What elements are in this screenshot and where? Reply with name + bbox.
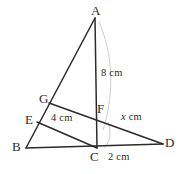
point-label-F: F [97,102,104,115]
measure-FD-label: x cm [121,112,142,123]
segment-AC [95,18,97,148]
point-label-E: E [25,113,33,126]
point-label-B: B [12,140,21,153]
segment-GD [49,103,163,144]
measure-GF-label: 4 cm [51,113,73,124]
measure-CD-label: 2 cm [108,152,130,163]
point-label-C: C [90,150,99,163]
segment-AB [26,18,95,148]
point-label-G: G [39,92,48,105]
arc-C-corner [104,122,110,148]
measure-FD-unit: cm [126,111,142,122]
geometry-figure [0,0,180,174]
measure-AC-label: 8 cm [101,68,123,79]
point-label-D: D [165,136,174,149]
point-label-A: A [91,4,100,17]
segment-EC [37,122,97,148]
